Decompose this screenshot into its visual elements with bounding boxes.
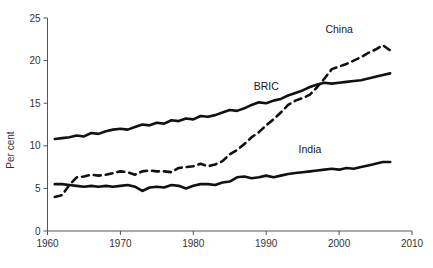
y-tick-label: 25 [29, 13, 41, 24]
series-line-india [55, 162, 390, 191]
x-tick-label: 1960 [36, 238, 59, 249]
x-tick-label: 2010 [401, 238, 424, 249]
y-axis-tick-labels: 0510152025 [29, 13, 41, 237]
series-label-china: China [325, 23, 353, 35]
series-paths [55, 45, 390, 197]
chart-figure: 0510152025 196019701980199020002010 Per … [0, 0, 433, 268]
series-line-china [55, 45, 390, 197]
x-tick-label: 1970 [109, 238, 132, 249]
line-chart: 0510152025 196019701980199020002010 Per … [0, 0, 433, 268]
x-axis-tick-labels: 196019701980199020002010 [36, 238, 423, 249]
y-tick-label: 0 [35, 226, 41, 237]
y-axis-title: Per cent [5, 131, 16, 168]
y-tick-label: 10 [29, 140, 41, 151]
series-label-bric: BRIC [254, 80, 280, 92]
x-tick-label: 2000 [328, 238, 351, 249]
x-axis-ticks [48, 231, 413, 235]
series-line-bric [55, 73, 390, 139]
y-tick-label: 5 [35, 183, 41, 194]
x-tick-label: 1990 [255, 238, 278, 249]
y-tick-label: 20 [29, 55, 41, 66]
series-label-india: India [299, 143, 322, 155]
y-tick-label: 15 [29, 98, 41, 109]
x-tick-label: 1980 [182, 238, 205, 249]
y-axis-ticks [44, 18, 48, 231]
